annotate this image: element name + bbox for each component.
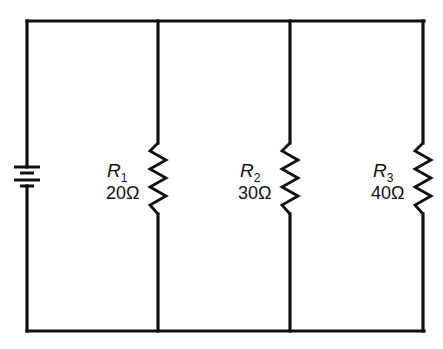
- resistor-label: R1: [107, 160, 128, 185]
- parallel-circuit-diagram: R1 20Ω R2 30Ω R3 40Ω: [0, 0, 443, 349]
- resistor-icon: [150, 143, 166, 214]
- resistor-value: 40Ω: [371, 183, 404, 203]
- resistor-value: 20Ω: [106, 183, 139, 203]
- resistor-icon: [415, 143, 431, 214]
- resistor-value: 30Ω: [238, 183, 271, 203]
- resistor-branch-r1: R1 20Ω: [106, 21, 166, 331]
- resistor-branch-r2: R2 30Ω: [238, 21, 298, 331]
- battery-branch: [14, 21, 40, 331]
- battery-icon: [14, 167, 40, 186]
- resistor-branch-r3: R3 40Ω: [371, 21, 431, 331]
- resistor-label: R2: [240, 160, 261, 185]
- resistor-label: R3: [373, 160, 394, 185]
- resistor-icon: [282, 143, 298, 214]
